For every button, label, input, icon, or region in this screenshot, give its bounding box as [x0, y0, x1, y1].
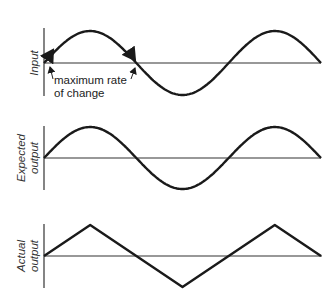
actual-label-line-1: Actual — [15, 240, 27, 273]
annotation-line-1: maximum rate — [54, 74, 127, 86]
expected-panel: Expected output — [15, 126, 321, 190]
input-panel: Input maximum rate of change — [28, 28, 321, 99]
waveform-diagram: Input maximum rate of change Expected ou… — [0, 0, 335, 299]
expected-label-line-2: output — [28, 141, 40, 174]
pointer-line-left — [50, 67, 53, 79]
annotation-line-2: of change — [54, 87, 105, 99]
pointer-line-right — [131, 68, 135, 79]
actual-label-line-2: output — [28, 239, 40, 272]
input-label: Input — [28, 49, 40, 75]
actual-panel: Actual output — [15, 224, 322, 288]
expected-label-line-1: Expected — [15, 133, 27, 182]
